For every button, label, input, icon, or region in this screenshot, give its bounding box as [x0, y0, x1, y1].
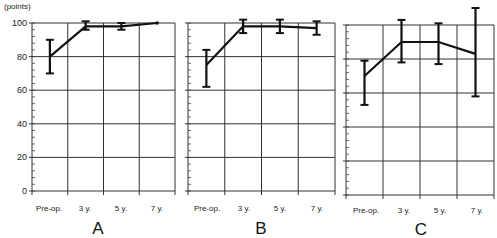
x-tick-3y: 3 y. — [79, 204, 91, 213]
x-tick-preop: Pre-op. — [194, 204, 220, 213]
x-tick-5y: 5 y. — [115, 204, 127, 213]
x-tick-preop: Pre-op. — [353, 206, 379, 215]
y-tick-80: 80 — [17, 52, 27, 62]
y-tick-40: 40 — [17, 119, 27, 129]
x-tick-preop: Pre-op. — [36, 204, 62, 213]
panel-label-a: A — [92, 219, 104, 238]
x-tick-7y: 7 y. — [151, 204, 163, 213]
x-tick-3y: 3 y. — [398, 206, 410, 215]
panel-b — [185, 20, 335, 195]
chart-figure: (points) 100 80 60 40 20 0 Pre-op. 3 y. … — [0, 0, 497, 238]
y-tick-20: 20 — [17, 152, 27, 162]
x-tick-5y: 5 y. — [274, 204, 286, 213]
x-axis-labels-b: Pre-op. 3 y. 5 y. 7 y. B — [194, 204, 323, 238]
panel-label-b: B — [255, 219, 266, 238]
panel-label-c: C — [415, 220, 427, 238]
x-tick-3y: 3 y. — [238, 204, 250, 213]
x-axis-labels-c: Pre-op. 3 y. 5 y. 7 y. C — [353, 206, 483, 238]
panel-c — [343, 8, 494, 199]
data-point — [155, 21, 159, 25]
y-axis-tick-labels: 100 80 60 40 20 0 — [12, 18, 27, 196]
y-tick-60: 60 — [17, 85, 27, 95]
y-tick-100: 100 — [12, 18, 27, 28]
x-tick-7y: 7 y. — [471, 206, 483, 215]
y-axis-unit-label: (points) — [4, 2, 31, 11]
x-tick-5y: 5 y. — [434, 206, 446, 215]
x-axis-labels-a: Pre-op. 3 y. 5 y. 7 y. A — [36, 204, 163, 238]
panel-a — [29, 21, 175, 195]
x-tick-7y: 7 y. — [311, 204, 323, 213]
y-tick-0: 0 — [22, 186, 27, 196]
